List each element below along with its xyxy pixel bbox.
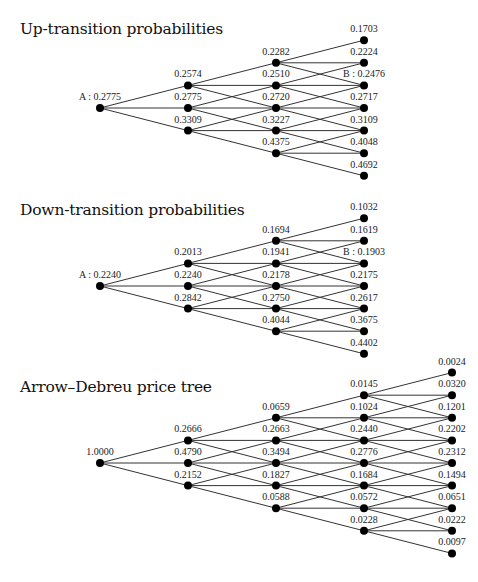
tree-node	[96, 282, 104, 290]
tree-node	[448, 482, 456, 490]
node-value-label: 1.0000	[86, 446, 114, 457]
tree-node	[448, 527, 456, 535]
tree-node	[360, 237, 368, 245]
node-value-label: 0.2666	[174, 423, 202, 434]
tree-node	[272, 414, 280, 422]
tree-node	[184, 259, 192, 267]
tree-node	[360, 214, 368, 222]
tree-node	[360, 149, 368, 157]
node-value-label: 0.2510	[262, 68, 290, 79]
node-value-label: 0.4790	[174, 446, 202, 457]
node-value-label: 0.1024	[350, 401, 378, 412]
tree-node	[360, 305, 368, 313]
tree-node	[272, 282, 280, 290]
tree-node	[272, 482, 280, 490]
tree-node	[360, 59, 368, 67]
node-value-label: 0.2720	[262, 91, 290, 102]
tree-node	[272, 504, 280, 512]
node-value-label: 0.1694	[262, 224, 290, 235]
tree-node	[360, 81, 368, 89]
tree-node	[360, 482, 368, 490]
node-value-label: 0.2224	[350, 46, 378, 57]
tree-node	[448, 459, 456, 467]
tree-node	[448, 549, 456, 557]
node-value-label: 0.4375	[262, 136, 290, 147]
trinomial-trees-canvas: A : 0.27750.25740.27750.33090.22820.2510…	[0, 0, 478, 582]
node-value-label: 0.0097	[438, 536, 466, 547]
node-value-label: 0.4402	[350, 337, 378, 348]
node-value-label: 0.2617	[350, 292, 378, 303]
node-value-label: 0.0572	[350, 491, 378, 502]
node-value-label: 0.2574	[174, 68, 202, 79]
tree-node	[448, 414, 456, 422]
tree-node	[184, 436, 192, 444]
node-value-label: 0.2776	[350, 446, 378, 457]
tree-node	[272, 259, 280, 267]
tree-node	[360, 504, 368, 512]
up-transition-tree: A : 0.27750.25740.27750.33090.22820.2510…	[79, 23, 385, 180]
node-value-label: 0.2013	[174, 246, 202, 257]
node-value-label: 0.4692	[350, 159, 378, 170]
node-value-label: A : 0.2240	[79, 269, 121, 280]
tree-node	[184, 104, 192, 112]
node-value-label: 0.1703	[350, 23, 378, 34]
tree-node	[272, 81, 280, 89]
tree-node	[96, 459, 104, 467]
tree-node	[272, 237, 280, 245]
tree-node	[360, 414, 368, 422]
node-value-label: 0.4044	[262, 314, 290, 325]
node-value-label: 0.2663	[262, 423, 290, 434]
tree-node	[272, 305, 280, 313]
tree-node	[360, 172, 368, 180]
tree-node	[360, 259, 368, 267]
node-value-label: 0.0651	[438, 491, 466, 502]
node-value-label: 0.2178	[262, 269, 290, 280]
node-value-label: 0.3494	[262, 446, 290, 457]
arrow-debreu-tree: 1.00000.26660.47900.21520.06590.26630.34…	[86, 356, 466, 558]
node-value-label: 0.2282	[262, 46, 290, 57]
tree-node	[360, 127, 368, 135]
node-value-label: 0.2717	[350, 91, 378, 102]
node-value-label: 0.3109	[350, 114, 378, 125]
tree-node	[184, 81, 192, 89]
node-value-label: A : 0.2775	[79, 91, 121, 102]
tree-node	[448, 369, 456, 377]
tree-node	[448, 391, 456, 399]
node-value-label: 0.3309	[174, 114, 202, 125]
tree-node	[360, 391, 368, 399]
tree-node	[448, 504, 456, 512]
node-value-label: 0.1032	[350, 201, 378, 212]
tree-node	[360, 350, 368, 358]
node-value-label: 0.2152	[174, 469, 202, 480]
tree-node	[360, 104, 368, 112]
tree-node	[96, 104, 104, 112]
tree-node	[272, 436, 280, 444]
tree-node	[360, 36, 368, 44]
tree-node	[360, 327, 368, 335]
node-value-label: 0.1619	[350, 224, 378, 235]
tree-node	[184, 482, 192, 490]
node-value-label: B : 0.1903	[343, 246, 385, 257]
tree-node	[184, 459, 192, 467]
tree-node	[360, 459, 368, 467]
node-value-label: 0.3675	[350, 314, 378, 325]
tree-node	[272, 459, 280, 467]
node-value-label: 0.2440	[350, 423, 378, 434]
node-value-label: 0.1494	[438, 469, 466, 480]
node-value-label: 0.0659	[262, 401, 290, 412]
node-value-label: 0.1201	[438, 401, 466, 412]
node-value-label: 0.1941	[262, 246, 290, 257]
node-value-label: 0.2775	[174, 91, 202, 102]
tree-node	[184, 305, 192, 313]
tree-node	[360, 527, 368, 535]
tree-node	[272, 327, 280, 335]
node-value-label: 0.2312	[438, 446, 466, 457]
tree-node	[272, 149, 280, 157]
node-value-label: 0.0320	[438, 378, 466, 389]
node-value-label: 0.2240	[174, 269, 202, 280]
node-value-label: 0.0228	[350, 514, 378, 525]
node-value-label: 0.0024	[438, 356, 466, 367]
tree-node	[272, 59, 280, 67]
node-value-label: 0.2175	[350, 269, 378, 280]
tree-node	[448, 436, 456, 444]
